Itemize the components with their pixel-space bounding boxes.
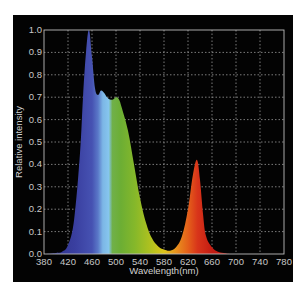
y-axis-ticks: 0.00.10.20.30.40.50.60.70.80.91.0 bbox=[29, 24, 42, 259]
y-tick-label: 0.7 bbox=[29, 91, 42, 102]
spectrum-chart: 380420460500540580620660700740780 0.00.1… bbox=[0, 0, 306, 295]
x-tick-label: 660 bbox=[204, 256, 220, 267]
y-tick-label: 0.3 bbox=[29, 181, 42, 192]
y-tick-label: 0.8 bbox=[29, 69, 42, 80]
y-tick-label: 0.5 bbox=[29, 136, 42, 147]
x-tick-label: 740 bbox=[252, 256, 268, 267]
x-tick-label: 700 bbox=[228, 256, 244, 267]
y-axis-label: Relative intensity bbox=[13, 106, 24, 178]
y-tick-label: 0.1 bbox=[29, 226, 42, 237]
x-tick-label: 780 bbox=[276, 256, 292, 267]
y-tick-label: 0.2 bbox=[29, 203, 42, 214]
y-tick-label: 1.0 bbox=[29, 24, 42, 35]
y-tick-label: 0.9 bbox=[29, 46, 42, 57]
y-tick-label: 0.0 bbox=[29, 248, 42, 259]
x-tick-label: 500 bbox=[108, 256, 124, 267]
x-tick-label: 460 bbox=[84, 256, 100, 267]
y-tick-label: 0.4 bbox=[29, 158, 42, 169]
x-tick-label: 420 bbox=[60, 256, 76, 267]
y-tick-label: 0.6 bbox=[29, 114, 42, 125]
x-axis-label: Wavelength(nm) bbox=[129, 265, 198, 276]
